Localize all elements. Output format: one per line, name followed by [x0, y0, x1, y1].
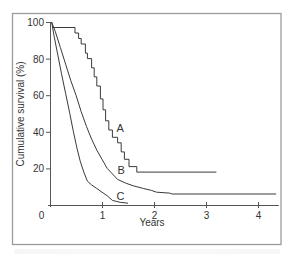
curve-label-b: B	[118, 164, 125, 176]
x-tick-label: 4	[256, 210, 262, 221]
y-tick-label: 100	[27, 17, 44, 28]
x-tick-label: 3	[204, 210, 210, 221]
curve-label-a: A	[117, 122, 125, 134]
axes: 1008060402001234	[27, 17, 278, 221]
curve-labels: ABC	[117, 122, 125, 202]
x-tick-label: 1	[100, 210, 106, 221]
y-tick-label: 60	[33, 90, 45, 101]
x-tick-label: 0	[39, 210, 45, 221]
caption-bleed	[14, 249, 280, 254]
x-axis-label: Years	[139, 217, 164, 228]
y-axis-label: Cumulative survival (%)	[15, 61, 26, 166]
chart-frame	[13, 14, 282, 245]
y-tick-label: 40	[33, 127, 45, 138]
survival-chart: 1008060402001234 ABC Years Cumulative su…	[0, 0, 292, 255]
curve-c	[52, 22, 128, 203]
curve-label-c: C	[117, 190, 125, 202]
y-tick-label: 20	[33, 163, 45, 174]
y-tick-label: 80	[33, 54, 45, 65]
curves	[52, 22, 277, 203]
